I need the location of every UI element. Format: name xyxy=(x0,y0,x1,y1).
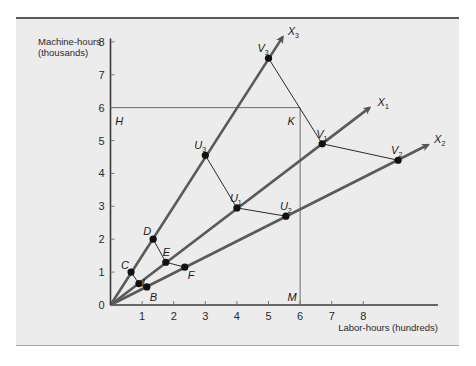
y-tick-label: 4 xyxy=(98,167,104,179)
ray-x3 xyxy=(111,37,283,305)
x-tick-label: 3 xyxy=(202,310,208,322)
ray-x2 xyxy=(111,145,429,305)
annotation-m: M xyxy=(287,291,297,303)
isoquant-chart: 01234567812345678Machine-hours(thousands… xyxy=(0,0,476,366)
point-label-d: D xyxy=(143,225,151,237)
annotation-k: K xyxy=(287,115,295,127)
x-tick-label: 4 xyxy=(234,310,240,322)
constraint-lines xyxy=(111,108,301,305)
y-tick-label: 5 xyxy=(98,135,104,147)
point-label-b: B xyxy=(150,291,157,303)
ray-label-x3: X3 xyxy=(287,25,299,39)
point-label-e: E xyxy=(163,246,171,258)
point-label-u2: U2 xyxy=(280,200,292,214)
axes: 01234567812345678Machine-hours(thousands… xyxy=(38,36,438,333)
point-label-c: C xyxy=(121,259,129,271)
y-axis-title-units: (thousands) xyxy=(38,47,88,58)
annotation-h: H xyxy=(115,115,123,127)
isoquant-lines xyxy=(131,58,398,287)
process-rays xyxy=(111,37,429,305)
isoquant-v3v1v2 xyxy=(269,58,399,160)
point-label-v3: V3 xyxy=(258,42,269,56)
point-label-l: L xyxy=(142,277,148,289)
point-label-v1: V1 xyxy=(316,128,327,142)
x-tick-label: 7 xyxy=(329,310,335,322)
ray-label-x2: X2 xyxy=(433,133,445,147)
x-tick-label: 6 xyxy=(297,310,303,322)
point-label-v2: V2 xyxy=(391,144,402,158)
y-tick-label: 0 xyxy=(98,299,104,311)
x-tick-label: 8 xyxy=(360,310,366,322)
point-label-u1: U1 xyxy=(230,192,242,206)
isoquant-u3u1u2 xyxy=(205,155,286,216)
x-tick-label: 5 xyxy=(265,310,271,322)
point-label-f: F xyxy=(188,269,196,281)
x-axis-title: Labor-hours (hundreds) xyxy=(338,322,438,333)
y-tick-label: 2 xyxy=(98,233,104,245)
point-label-u3: U3 xyxy=(194,139,206,153)
x-tick-label: 1 xyxy=(139,310,145,322)
y-tick-label: 6 xyxy=(98,102,104,114)
y-tick-label: 7 xyxy=(98,69,104,81)
ray-label-x1: X1 xyxy=(377,96,389,110)
x-tick-label: 2 xyxy=(171,310,177,322)
y-tick-label: 1 xyxy=(98,266,104,278)
y-axis-title: Machine-hours xyxy=(38,36,101,47)
point-e xyxy=(162,259,169,266)
y-tick-label: 3 xyxy=(98,200,104,212)
